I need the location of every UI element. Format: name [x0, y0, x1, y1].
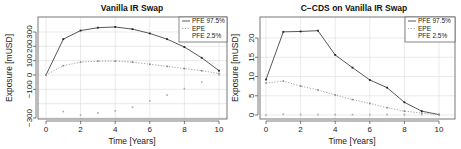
x-tick-label: 8 — [182, 125, 187, 134]
y-tick-label: 100 — [25, 53, 34, 67]
x-tick-label: 8 — [402, 125, 407, 134]
figure: 0246810Time [Years]−300−1000100200300Exp… — [0, 0, 461, 149]
legend: PFE 97.5%EPEPFE 2.5% — [405, 17, 455, 42]
x-tick-label: 10 — [215, 125, 224, 134]
x-tick-label: 4 — [113, 125, 118, 134]
x-axis-label: Time [Years] — [328, 136, 375, 146]
x-tick-label: 0 — [44, 125, 49, 134]
x-tick-label: 10 — [435, 125, 444, 134]
legend-entry: EPE — [192, 25, 206, 32]
y-tick-label: 10 — [247, 72, 256, 81]
y-tick-label: 300 — [25, 25, 34, 39]
y-tick-label: 5 — [247, 93, 256, 98]
y-axis-label: Exposure [mUSD] — [230, 34, 240, 102]
legend-entry: PFE 97.5% — [418, 17, 451, 24]
chart-title: C−CDS on Vanilla IR Swap — [301, 3, 408, 13]
x-tick-label: 2 — [298, 125, 303, 134]
x-tick-label: 6 — [148, 125, 153, 134]
y-tick-label: 0 — [25, 72, 34, 77]
exposure-charts: 0246810Time [Years]−300−1000100200300Exp… — [0, 0, 461, 149]
x-axis: 0246810Time [Years] — [44, 121, 224, 146]
x-axis: 0246810Time [Years] — [264, 121, 444, 146]
chart-1: 0246810Time [Years]−300−1000100200300Exp… — [4, 3, 227, 146]
y-tick-label: 15 — [247, 52, 256, 61]
x-axis-label: Time [Years] — [108, 136, 155, 146]
y-tick-label: 0 — [247, 112, 256, 117]
y-axis: −300−1000100200300Exposure [mUSD] — [4, 25, 36, 127]
legend: PFE 97.5%EPEPFE 2.5% — [179, 17, 227, 42]
y-tick-label: 200 — [25, 39, 34, 53]
y-tick-label: −100 — [25, 80, 34, 99]
y-tick-label: −300 — [25, 108, 34, 127]
legend-entry: PFE 2.5% — [192, 32, 221, 39]
legend-entry: PFE 2.5% — [418, 32, 447, 39]
legend-entry: PFE 97.5% — [192, 17, 225, 24]
y-axis-label: Exposure [mUSD] — [4, 34, 14, 102]
legend-entry: EPE — [418, 25, 432, 32]
x-tick-label: 0 — [264, 125, 269, 134]
chart-2: 0246810Time [Years]05101520Exposure [mUS… — [230, 3, 455, 146]
x-tick-label: 4 — [333, 125, 338, 134]
x-tick-label: 6 — [368, 125, 373, 134]
y-axis: 05101520Exposure [mUSD] — [230, 33, 258, 117]
y-tick-label: 20 — [247, 33, 256, 42]
chart-title: Vanilla IR Swap — [101, 3, 163, 13]
x-tick-label: 2 — [78, 125, 83, 134]
